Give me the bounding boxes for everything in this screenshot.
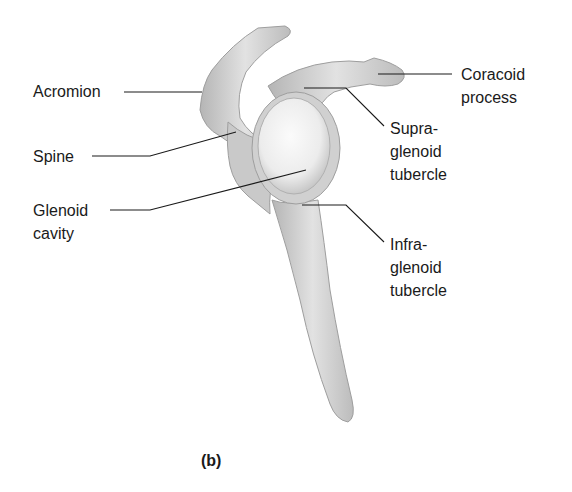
lateral-border-shape <box>272 200 353 422</box>
label-coracoid-line1: Coracoid <box>461 63 525 86</box>
label-infraglenoid-line3: tubercle <box>390 279 447 302</box>
label-coracoid-process: Coracoid process <box>461 63 525 109</box>
label-supraglenoid-tubercle: Supra- glenoid tubercle <box>390 117 447 186</box>
spine-leader <box>92 132 236 156</box>
label-infraglenoid-line2: glenoid <box>390 256 447 279</box>
label-infraglenoid-tubercle: Infra- glenoid tubercle <box>390 233 447 302</box>
scapula-diagram: Acromion Spine Glenoid cavity Coracoid p… <box>0 0 572 492</box>
label-supraglenoid-line3: tubercle <box>390 163 447 186</box>
label-glenoid-cavity-line2: cavity <box>33 222 88 245</box>
panel-label: (b) <box>201 452 221 470</box>
label-infraglenoid-line1: Infra- <box>390 233 447 256</box>
label-glenoid-cavity: Glenoid cavity <box>33 199 88 245</box>
label-supraglenoid-line1: Supra- <box>390 117 447 140</box>
label-coracoid-line2: process <box>461 86 525 109</box>
label-spine: Spine <box>33 145 74 168</box>
label-glenoid-cavity-line1: Glenoid <box>33 199 88 222</box>
label-acromion: Acromion <box>33 80 101 103</box>
label-supraglenoid-line2: glenoid <box>390 140 447 163</box>
